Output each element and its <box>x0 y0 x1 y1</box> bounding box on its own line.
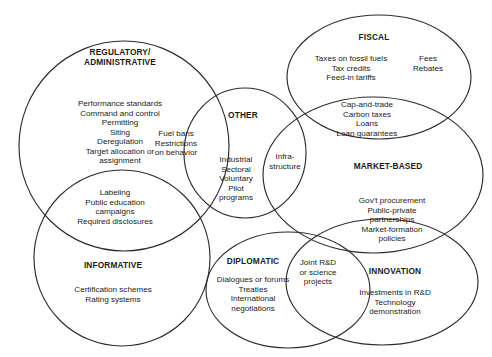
shape-regulatory-administrative <box>19 41 229 251</box>
shape-diplomatic <box>206 232 370 348</box>
shape-informative <box>34 170 210 346</box>
venn-diagram: REGULATORY/ ADMINISTRATIVE Performance s… <box>0 0 492 357</box>
venn-shapes-canvas <box>0 0 492 357</box>
shape-fiscal <box>287 15 471 139</box>
shape-innovation <box>286 219 478 345</box>
shape-other <box>184 88 306 218</box>
shape-market-based <box>263 97 483 253</box>
